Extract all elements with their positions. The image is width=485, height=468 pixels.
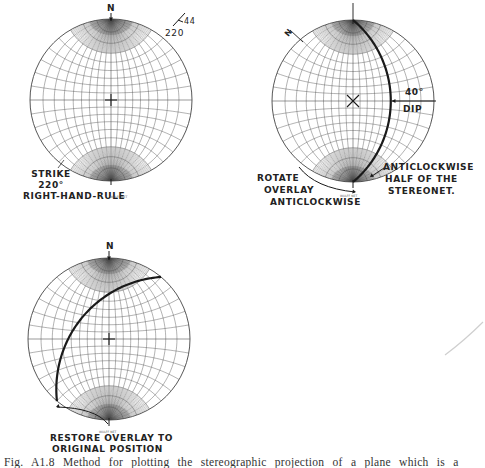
restore-label-line2: ORIGINAL POSITION [52, 444, 163, 455]
restore-label-line1: RESTORE OVERLAY TO [50, 433, 173, 444]
anticlockwise-half-line2: HALF OF THE [385, 174, 458, 185]
dip-tick-symbol [178, 20, 183, 22]
rotate-label-line2: OVERLAY [264, 185, 314, 196]
strike-value-symbol: 220 [165, 28, 184, 39]
anticlockwise-half-line1: ANTICLOCKWISE [383, 162, 474, 173]
dip-value-symbol: 44 [184, 16, 195, 27]
stereonet-panel-3 [28, 242, 190, 436]
dip-value-label: 40° [405, 87, 424, 98]
strike-label: STRIKE [31, 169, 71, 180]
rotate-label-line1: ROTATE [257, 173, 299, 184]
net-tag-1: WULFF NET [110, 195, 127, 199]
annotations [56, 3, 483, 426]
figure-caption: Fig. A1.8 Method for plotting the stereo… [4, 456, 484, 468]
strike-leader [58, 160, 64, 168]
north-label-1: N [107, 3, 115, 14]
north-label-3: N [106, 241, 114, 252]
net-tag-2: WULFF NET [340, 194, 357, 198]
anticlockwise-half-line3: STEREONET. [388, 186, 455, 197]
strike-value-label: 220° [31, 180, 71, 191]
rotate-label-line3: ANTICLOCKWISE [270, 197, 361, 208]
figure-canvas [0, 0, 485, 468]
dip-text-label: DIP [403, 104, 422, 115]
scan-smudge [445, 322, 483, 355]
